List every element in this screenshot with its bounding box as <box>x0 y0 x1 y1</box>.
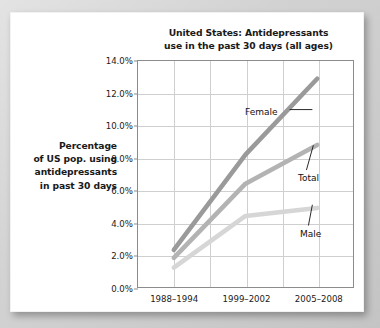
y-axis-label: Percentage of US pop. using antidepressa… <box>23 139 117 192</box>
y-axis-tick-label: 14.0% <box>89 56 138 66</box>
x-axis-tick-label: 1999–2002 <box>222 294 270 304</box>
y-axis-tick-label: 8.0% <box>89 154 138 164</box>
y-axis-tick-label: 4.0% <box>89 219 138 229</box>
y-axis-label-line-3: antidepressants <box>35 166 117 177</box>
y-axis-tick-label: 10.0% <box>89 121 138 131</box>
series-lines <box>138 61 353 287</box>
y-axis-tick-mark <box>134 289 138 290</box>
y-axis-label-line-1: Percentage <box>59 140 117 151</box>
chart-title-line-1: United States: Antidepressants <box>169 27 329 38</box>
x-axis-tick-label: 2005–2008 <box>295 294 343 304</box>
annotation-label-total: Total <box>298 173 319 183</box>
chart-card: United States: Antidepressants use in th… <box>10 12 364 312</box>
x-axis-tick-label: 1988–1994 <box>150 294 198 304</box>
y-axis-tick-label: 12.0% <box>89 89 138 99</box>
annotation-label-female: Female <box>245 107 278 117</box>
plot-area: 0.0%2.0%4.0%6.0%8.0%10.0%12.0%14.0% 1988… <box>137 60 354 288</box>
series-line-female <box>174 79 317 250</box>
page-background: United States: Antidepressants use in th… <box>0 0 380 328</box>
chart-title-line-2: use in the past 30 days (all ages) <box>164 40 333 51</box>
y-axis-tick-label: 6.0% <box>89 186 138 196</box>
y-axis-tick-label: 0.0% <box>89 284 138 294</box>
y-axis-tick-label: 2.0% <box>89 251 138 261</box>
annotation-label-male: Male <box>300 229 321 239</box>
chart-title: United States: Antidepressants use in th… <box>141 27 356 52</box>
series-line-total <box>174 145 317 258</box>
